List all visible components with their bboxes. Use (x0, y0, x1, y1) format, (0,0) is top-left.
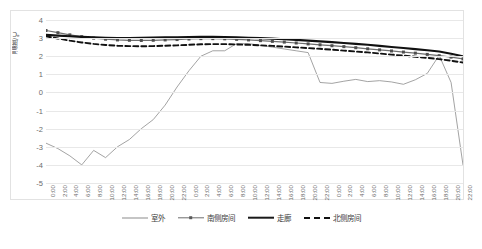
legend-swatch-icon (122, 214, 148, 222)
gridline (46, 111, 463, 112)
x-axis-tick-label: 0:00 (192, 185, 199, 197)
x-axis-tick-label: 14:00 (418, 185, 425, 200)
legend-item-4[interactable]: 北侧房间 (304, 212, 361, 223)
x-axis-tick-label: 10:00 (108, 185, 115, 200)
y-axis-tick-label: -2 (36, 124, 43, 133)
plot-area: 43210-1-2-3-4-5 (46, 20, 463, 183)
legend-label: 南侧房间 (207, 212, 235, 223)
legend-swatch-icon (248, 214, 274, 222)
x-axis-tick-label: 0:00 (49, 185, 56, 197)
series-marker (319, 43, 322, 46)
gridline (46, 147, 463, 148)
x-axis-tick-label: 14:00 (275, 185, 282, 200)
x-axis-tick-label: 8:00 (382, 185, 389, 197)
legend-item-1[interactable]: 室外 (122, 212, 165, 223)
chart-legend: 室外南侧房间走廊北侧房间 (0, 212, 482, 223)
legend-item-3[interactable]: 走廊 (248, 212, 291, 223)
x-axis-tick-label: 14:00 (132, 185, 139, 200)
series-marker (259, 39, 262, 42)
y-axis-tick-label: 2 (39, 52, 43, 61)
x-axis-tick-label: 20:00 (454, 185, 461, 200)
x-axis-tick-label: 10:00 (394, 185, 401, 200)
x-axis-tick-label: 6:00 (370, 185, 377, 197)
x-axis-tick-label: 8:00 (96, 185, 103, 197)
series-marker (152, 39, 155, 42)
x-axis-tick-label: 18:00 (442, 185, 449, 200)
x-axis-tick-label: 10:00 (251, 185, 258, 200)
gridline (46, 20, 463, 21)
x-axis-ticks: 0:002:004:006:008:0010:0012:0014:0016:00… (46, 185, 463, 215)
x-axis-tick-label: 18:00 (156, 185, 163, 200)
x-axis-tick-label: 6:00 (227, 185, 234, 197)
y-axis-tick-label: -5 (36, 179, 43, 188)
x-axis-tick-label: 4:00 (72, 185, 79, 197)
series-layer (46, 20, 463, 183)
y-axis-tick-label: 1 (39, 70, 43, 79)
x-axis-tick-label: 6:00 (84, 185, 91, 197)
series-marker (462, 57, 464, 60)
legend-swatch-icon (178, 214, 204, 222)
x-axis-tick-label: 12:00 (263, 185, 270, 200)
gridline (46, 129, 463, 130)
x-axis-tick-label: 12:00 (120, 185, 127, 200)
x-axis-tick-label: 2:00 (346, 185, 353, 197)
legend-item-2[interactable]: 南侧房间 (178, 212, 235, 223)
series-marker (366, 47, 369, 50)
x-axis-tick-label: 4:00 (358, 185, 365, 197)
y-axis-tick-label: -4 (36, 160, 43, 169)
x-axis-tick-label: 0:00 (335, 185, 342, 197)
gridline (46, 92, 463, 93)
x-axis-tick-label: 22:00 (466, 185, 473, 200)
x-axis-tick-label: 20:00 (311, 185, 318, 200)
gridline (46, 38, 463, 39)
x-axis-tick-label: 18:00 (299, 185, 306, 200)
series-marker (342, 45, 345, 48)
series-marker (271, 40, 274, 43)
y-axis-tick-label: 3 (39, 34, 43, 43)
gridline (46, 74, 463, 75)
y-axis-tick-label: 4 (39, 16, 43, 25)
series-marker (414, 52, 417, 55)
gridline (46, 56, 463, 57)
x-axis-tick-label: 12:00 (406, 185, 413, 200)
y-axis-tick-label: -1 (36, 106, 43, 115)
x-axis-tick-label: 16:00 (287, 185, 294, 200)
legend-swatch-icon (304, 214, 330, 222)
series-marker (354, 46, 357, 49)
series-marker (378, 48, 381, 51)
legend-label: 走廊 (277, 212, 291, 223)
series-marker (46, 29, 48, 32)
gridline (46, 165, 463, 166)
x-axis-tick-label: 22:00 (323, 185, 330, 200)
series-marker (56, 31, 59, 34)
legend-label: 室外 (151, 212, 165, 223)
series-marker (140, 39, 143, 42)
x-axis-tick-label: 22:00 (180, 185, 187, 200)
series-marker (330, 44, 333, 47)
x-axis-tick-label: 16:00 (430, 185, 437, 200)
x-axis-tick-label: 4:00 (215, 185, 222, 197)
series-marker (283, 41, 286, 44)
x-axis-tick-label: 2:00 (61, 185, 68, 197)
x-axis-tick-label: 16:00 (144, 185, 151, 200)
y-axis-title: 温度/℃ (12, 30, 26, 54)
x-axis-tick-label: 8:00 (239, 185, 246, 197)
series-marker (128, 39, 131, 42)
y-axis-tick-label: 0 (39, 88, 43, 97)
series-marker (295, 42, 298, 45)
series-marker (307, 42, 310, 45)
series-marker (402, 51, 405, 54)
x-axis-tick-label: 2:00 (203, 185, 210, 197)
x-axis-tick-label: 20:00 (168, 185, 175, 200)
gridline (46, 183, 463, 184)
y-axis-tick-label: -3 (36, 142, 43, 151)
legend-label: 北侧房间 (333, 212, 361, 223)
series-marker (390, 49, 393, 52)
